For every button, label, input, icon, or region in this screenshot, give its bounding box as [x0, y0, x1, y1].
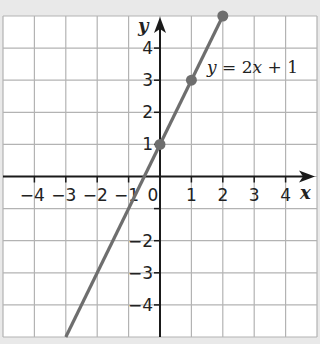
x-tick-label: −2	[83, 185, 108, 205]
data-point	[155, 139, 166, 150]
coordinate-plane: −4−3−2−101234−4−3−21234 x y y = 2x + 1	[0, 0, 320, 344]
y-tick-label: 2	[142, 102, 153, 122]
y-tick-label: 3	[142, 70, 153, 90]
equation-const: + 1	[262, 57, 298, 77]
y-tick-label: −4	[128, 295, 153, 315]
x-tick-label: −3	[51, 185, 76, 205]
x-tick-label: 1	[186, 185, 197, 205]
x-tick-label: 2	[217, 185, 228, 205]
equation-label: y = 2x + 1	[206, 57, 298, 77]
y-axis-label: y	[137, 15, 150, 36]
y-tick-label: −2	[128, 231, 153, 251]
x-tick-label: −4	[20, 185, 45, 205]
x-axis-label: x	[299, 182, 311, 203]
equation-x: x	[252, 57, 262, 77]
y-tick-label: −3	[128, 263, 153, 283]
data-point	[217, 11, 228, 22]
y-tick-label: 4	[142, 38, 153, 58]
x-tick-label: 0	[148, 185, 159, 205]
equation-y: y	[206, 57, 217, 77]
x-tick-label: 4	[280, 185, 291, 205]
equation-eq: = 2	[217, 57, 253, 77]
x-tick-label: 3	[249, 185, 260, 205]
data-point	[186, 75, 197, 86]
y-tick-label: 1	[142, 134, 153, 154]
